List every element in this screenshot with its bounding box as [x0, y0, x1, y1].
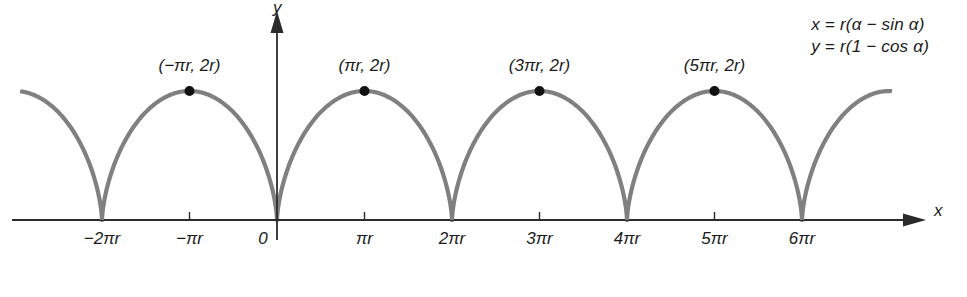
- marked-point-label: (−πr, 2r): [159, 56, 221, 76]
- x-tick-label: 0: [258, 229, 267, 249]
- marked-point-label: (5πr, 2r): [684, 56, 745, 76]
- x-axis-label: x: [934, 201, 943, 221]
- x-tick-label: −2πr: [84, 229, 120, 249]
- cycloid-curve-layer: [22, 91, 890, 220]
- marked-point: [360, 86, 370, 96]
- axes-layer: [12, 11, 926, 240]
- cycloid-arch: [22, 91, 102, 220]
- marked-points-layer: [185, 86, 720, 96]
- x-axis-arrowhead: [903, 214, 926, 227]
- x-tick-label: 2πr: [439, 229, 466, 249]
- marked-point: [710, 86, 720, 96]
- marked-point: [535, 86, 545, 96]
- x-tick-label: 5πr: [701, 229, 728, 249]
- x-tick-label: 4πr: [614, 229, 641, 249]
- x-tick-label: πr: [356, 229, 373, 249]
- equation-y: y = r(1 − cos α): [811, 36, 929, 58]
- cycloid-arch: [802, 91, 890, 220]
- cycloid-arch: [277, 91, 452, 220]
- marked-point: [185, 86, 195, 96]
- y-axis-label: y: [273, 0, 282, 18]
- equation-x: x = r(α − sin α): [811, 14, 929, 36]
- cycloid-arch: [452, 91, 627, 220]
- x-tick-label: −πr: [176, 229, 203, 249]
- x-tick-label: 6πr: [789, 229, 816, 249]
- cycloid-arch: [102, 91, 277, 220]
- marked-point-label: (3πr, 2r): [509, 56, 570, 76]
- marked-point-label: (πr, 2r): [339, 56, 391, 76]
- cycloid-arch: [627, 91, 802, 220]
- parametric-equations: x = r(α − sin α) y = r(1 − cos α): [811, 14, 929, 59]
- tick-marks-layer: [102, 209, 802, 220]
- x-tick-label: 3πr: [526, 229, 553, 249]
